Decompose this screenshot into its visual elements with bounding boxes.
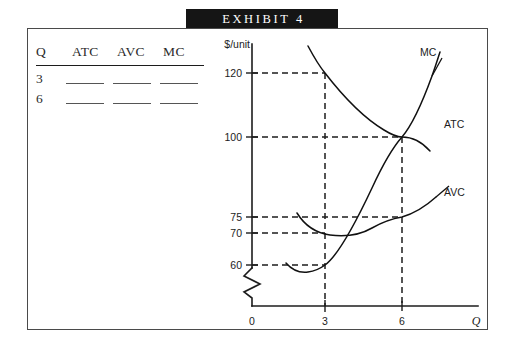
- x-tick-label-6: 6: [399, 315, 405, 327]
- table-cell-q: 3: [36, 71, 56, 87]
- x-tick-label-3: 3: [322, 315, 328, 327]
- table-header-q: Q: [36, 44, 72, 60]
- table-blank-mc[interactable]: [160, 103, 198, 104]
- table-header-atc: ATC: [72, 44, 117, 60]
- table-row: 6: [36, 91, 206, 106]
- table-header-avc: AVC: [117, 44, 163, 60]
- curve-mc: [286, 52, 440, 272]
- table-blank-atc[interactable]: [66, 103, 104, 104]
- table-blank-avc[interactable]: [113, 83, 151, 84]
- table-cell-q: 6: [36, 91, 56, 107]
- table-blank-atc[interactable]: [66, 83, 104, 84]
- exhibit-banner: EXHIBIT 4: [186, 9, 338, 29]
- table-header-rule: [36, 65, 204, 66]
- y-tick-label-60: 60: [230, 259, 242, 271]
- table-header-mc: MC: [163, 44, 203, 60]
- table-blank-avc[interactable]: [113, 103, 151, 104]
- y-tick-label-75: 75: [230, 211, 242, 223]
- curve-label-mc: MC: [420, 46, 437, 58]
- table-blank-mc[interactable]: [160, 83, 198, 84]
- y-axis-unit-label: $/unit: [224, 38, 250, 50]
- y-axis-break-icon: [244, 268, 260, 306]
- table-header-row: Q ATC AVC MC: [36, 44, 206, 60]
- exhibit-banner-label: EXHIBIT 4: [219, 13, 305, 26]
- cost-curves-svg: $/unit 120 100 75 70 60 0 3 6 Q MC ATC A…: [206, 36, 488, 328]
- y-tick-label-120: 120: [224, 67, 242, 79]
- cost-data-table: Q ATC AVC MC 3 6: [36, 44, 206, 106]
- x-axis-symbol-label: Q: [472, 314, 481, 328]
- curve-label-avc: AVC: [444, 186, 465, 198]
- y-tick-label-100: 100: [224, 131, 242, 143]
- curve-atc: [308, 46, 430, 151]
- y-tick-label-70: 70: [230, 227, 242, 239]
- cost-curves-chart: $/unit 120 100 75 70 60 0 3 6 Q MC ATC A…: [206, 36, 488, 328]
- x-origin-label: 0: [249, 315, 255, 327]
- table-row: 3: [36, 71, 206, 86]
- curve-label-atc: ATC: [444, 118, 465, 130]
